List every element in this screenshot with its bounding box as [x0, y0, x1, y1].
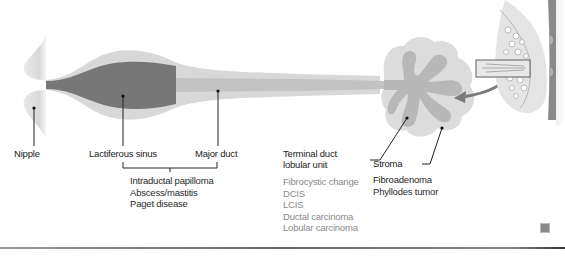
tdlu-pathology-item: Lobular carcinoma	[283, 222, 359, 234]
expand-icon[interactable]	[540, 223, 550, 233]
stroma-label: Stroma	[373, 158, 402, 170]
breast-inset	[476, 0, 565, 125]
diagram-canvas: Nipple Lactiferous sinus Major duct Term…	[0, 0, 565, 258]
nipple-shape	[24, 34, 46, 138]
lactiferous-sinus-shape	[46, 62, 176, 109]
tdlu-label-line2: lobular unit	[283, 159, 327, 171]
stroma-pathology-item: Phyllodes tumor	[373, 186, 438, 198]
duct-pathology-item: Paget disease	[130, 198, 213, 210]
major-duct-label: Major duct	[195, 148, 237, 160]
tdlu-pathology-item: Ductal carcinoma	[283, 211, 359, 223]
stroma-pathology-list: Fibroadenoma Phyllodes tumor	[373, 174, 438, 197]
duct-pathology-list: Intraductal papilloma Abscess/mastitis P…	[130, 175, 213, 210]
tdlu-pathology-item: LCIS	[283, 199, 359, 211]
lactiferous-sinus-label: Lactiferous sinus	[89, 148, 157, 160]
duct-pathology-item: Intraductal papilloma	[130, 175, 213, 187]
tdlu-pathology-item: DCIS	[283, 188, 359, 200]
bottom-divider	[0, 247, 565, 249]
stroma-pathology-item: Fibroadenoma	[373, 174, 438, 186]
tdlu-pathology-item: Fibrocystic change	[283, 176, 359, 188]
inset-highlight-box	[476, 60, 530, 77]
tdlu-pathology-list: Fibrocystic change DCIS LCIS Ductal carc…	[283, 176, 359, 234]
duct-pathology-item: Abscess/mastitis	[130, 187, 213, 199]
tdlu-shape	[381, 37, 474, 137]
nipple-label: Nipple	[14, 148, 40, 160]
